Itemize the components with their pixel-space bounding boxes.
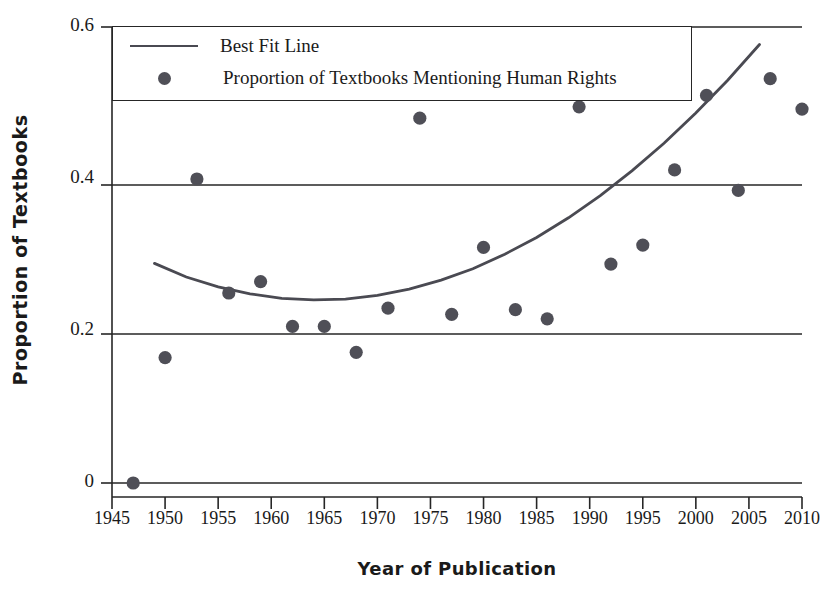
x-tick-label-1980: 1980 bbox=[454, 508, 514, 529]
y-axis bbox=[101, 27, 112, 483]
x-tick-label-2010: 2010 bbox=[772, 508, 832, 529]
data-point bbox=[254, 275, 267, 288]
x-axis bbox=[112, 483, 802, 509]
line-swatch-icon bbox=[130, 45, 198, 47]
x-tick-label-1975: 1975 bbox=[400, 508, 460, 529]
legend-entry-best-fit-line: Best Fit Line bbox=[127, 31, 319, 61]
y-tick-label-0.6: 0.6 bbox=[32, 14, 94, 36]
circle-marker-icon bbox=[158, 72, 171, 85]
data-point bbox=[381, 302, 394, 315]
data-point bbox=[445, 308, 458, 321]
x-tick-label-1985: 1985 bbox=[507, 508, 567, 529]
data-points bbox=[127, 72, 809, 490]
x-axis-title: Year of Publication bbox=[112, 558, 802, 579]
data-point bbox=[700, 89, 713, 102]
legend-label-1: Proportion of Textbooks Mentioning Human… bbox=[223, 67, 617, 89]
data-point bbox=[573, 100, 586, 113]
data-point bbox=[127, 476, 140, 489]
data-point bbox=[668, 163, 681, 176]
data-point bbox=[318, 320, 331, 333]
data-point bbox=[477, 241, 490, 254]
legend-entry-proportion: Proportion of Textbooks Mentioning Human… bbox=[127, 63, 617, 93]
x-tick-label-1950: 1950 bbox=[135, 508, 195, 529]
data-point bbox=[190, 172, 203, 185]
x-tick-label-1960: 1960 bbox=[241, 508, 301, 529]
data-point bbox=[541, 312, 554, 325]
data-point bbox=[509, 303, 522, 316]
data-point bbox=[604, 258, 617, 271]
chart-figure: Proportion of Textbooks 00.2 bbox=[0, 0, 834, 597]
legend-label-0: Best Fit Line bbox=[220, 35, 319, 57]
data-point bbox=[159, 351, 172, 364]
x-tick-label-1945: 1945 bbox=[82, 508, 142, 529]
data-point bbox=[636, 239, 649, 252]
y-tick-label-0.2: 0.2 bbox=[32, 318, 94, 340]
x-tick-label-1965: 1965 bbox=[294, 508, 354, 529]
data-point bbox=[764, 72, 777, 85]
y-tick-label-0: 0 bbox=[32, 470, 94, 492]
data-point bbox=[286, 320, 299, 333]
legend: Best Fit Line Proportion of Textbooks Me… bbox=[112, 26, 692, 101]
x-tick-label-2000: 2000 bbox=[666, 508, 726, 529]
data-point bbox=[732, 184, 745, 197]
data-point bbox=[795, 103, 808, 116]
data-point bbox=[350, 346, 363, 359]
dot-swatch-icon bbox=[127, 72, 201, 85]
data-point bbox=[222, 286, 235, 299]
x-tick-label-1995: 1995 bbox=[613, 508, 673, 529]
x-tick-label-1990: 1990 bbox=[560, 508, 620, 529]
x-tick-label-2005: 2005 bbox=[719, 508, 779, 529]
data-point bbox=[413, 112, 426, 125]
y-tick-label-0.4: 0.4 bbox=[32, 166, 94, 188]
x-tick-label-1955: 1955 bbox=[188, 508, 248, 529]
x-tick-label-1970: 1970 bbox=[347, 508, 407, 529]
